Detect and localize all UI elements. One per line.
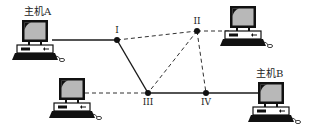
router-I-node [114, 37, 120, 43]
router-III-label: III [143, 98, 154, 107]
router-I-label: I [115, 26, 119, 35]
routers [114, 28, 209, 96]
host-b-computer-icon [248, 82, 301, 124]
router-II-node [194, 28, 200, 34]
router-III-node [145, 90, 151, 96]
router-IV-node [203, 90, 209, 96]
link-II-IV [197, 31, 206, 93]
top-right-computer-icon [220, 6, 273, 48]
bottom-left-computer-icon [49, 78, 102, 120]
host-a-label: 主机A [24, 7, 51, 17]
link-I-III [117, 40, 148, 93]
link-I-II [117, 31, 197, 40]
link-II-III [148, 31, 197, 93]
router-IV-label: IV [201, 98, 211, 107]
router-II-label: II [193, 17, 200, 26]
host-b-label: 主机B [256, 69, 283, 79]
host-a-computer-icon [12, 20, 65, 62]
